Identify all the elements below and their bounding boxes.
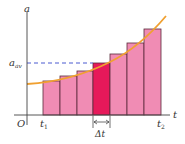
- origin-label: O: [17, 118, 25, 129]
- bar-6: [127, 43, 144, 115]
- bars: [43, 29, 161, 115]
- bar-2: [60, 76, 77, 115]
- t2-label: t2: [157, 118, 165, 130]
- bar-7: [144, 29, 161, 115]
- bar-5: [110, 54, 127, 115]
- bar-4-highlighted: [93, 63, 110, 115]
- delta-t-label: Δt: [94, 129, 105, 139]
- bar-3: [77, 71, 93, 115]
- riemann-diagram: a t O aav t1 t2 Δt: [0, 0, 185, 144]
- bar-1: [43, 81, 60, 115]
- delta-t-bracket: [93, 116, 110, 128]
- x-axis-label: t: [173, 109, 178, 120]
- a-avg-label: aav: [9, 57, 23, 69]
- y-axis-label: a: [24, 3, 30, 14]
- t1-label: t1: [40, 118, 48, 130]
